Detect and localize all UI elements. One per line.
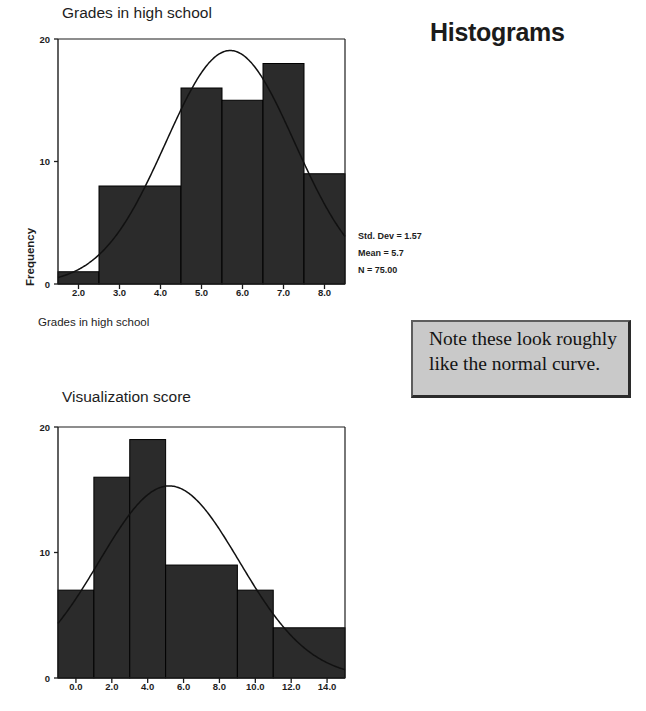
stats-std-dev: Std. Dev = 1.57 bbox=[358, 228, 422, 245]
stats-n: N = 75.00 bbox=[358, 262, 422, 279]
bars-group bbox=[58, 64, 345, 285]
stats-mean: Mean = 5.7 bbox=[358, 245, 422, 262]
histogram-bar bbox=[166, 565, 238, 678]
histogram-bar bbox=[181, 88, 222, 284]
histogram-bar bbox=[237, 590, 273, 678]
histogram-bar bbox=[263, 64, 304, 285]
x-tick-label: 7.0 bbox=[277, 287, 290, 298]
histogram-bar bbox=[58, 590, 94, 678]
x-tick-label: 10.0 bbox=[246, 681, 265, 692]
x-tick-label: 6.0 bbox=[236, 287, 249, 298]
x-tick-label: 2.0 bbox=[105, 681, 118, 692]
y-tick-label: 20 bbox=[39, 34, 50, 45]
page-canvas: Histograms Grades in high school Frequen… bbox=[0, 0, 646, 711]
x-tick-label: 4.0 bbox=[141, 681, 154, 692]
x-tick-label: 8.0 bbox=[318, 287, 331, 298]
x-tick-label: 6.0 bbox=[177, 681, 190, 692]
y-tick-label: 20 bbox=[39, 422, 50, 433]
plot-area: 010202.03.04.05.06.07.08.0 bbox=[0, 0, 400, 345]
x-tick-label: 3.0 bbox=[113, 287, 126, 298]
y-tick-label: 0 bbox=[45, 673, 50, 684]
plot-area: 010200.02.04.06.08.010.012.014.0 bbox=[0, 382, 400, 711]
y-tick-label: 10 bbox=[39, 547, 50, 558]
chart-grades-in-high-school: Grades in high school Frequency Grades i… bbox=[0, 0, 400, 345]
x-tick-label: 8.0 bbox=[213, 681, 226, 692]
x-tick-label: 5.0 bbox=[195, 287, 208, 298]
y-tick-label: 10 bbox=[39, 156, 50, 167]
histogram-bar bbox=[94, 477, 130, 678]
histogram-bar bbox=[222, 100, 263, 284]
page-title: Histograms bbox=[430, 18, 565, 47]
stats-annotation: Std. Dev = 1.57 Mean = 5.7 N = 75.00 bbox=[358, 228, 422, 279]
x-tick-label: 0.0 bbox=[69, 681, 82, 692]
note-callout-box: Note these look roughly like the normal … bbox=[411, 320, 631, 398]
chart-visualization-score: Visualization score Frequency 010200.02.… bbox=[0, 382, 400, 711]
histogram-bar bbox=[273, 628, 345, 678]
histogram-bar bbox=[99, 186, 181, 284]
note-callout-text: Note these look roughly like the normal … bbox=[429, 326, 619, 376]
x-tick-label: 12.0 bbox=[282, 681, 301, 692]
x-tick-label: 2.0 bbox=[72, 287, 85, 298]
histogram-bar bbox=[130, 440, 166, 678]
x-tick-label: 4.0 bbox=[154, 287, 167, 298]
histogram-bar bbox=[58, 272, 99, 284]
y-tick-label: 0 bbox=[45, 279, 50, 290]
x-tick-label: 14.0 bbox=[318, 681, 337, 692]
